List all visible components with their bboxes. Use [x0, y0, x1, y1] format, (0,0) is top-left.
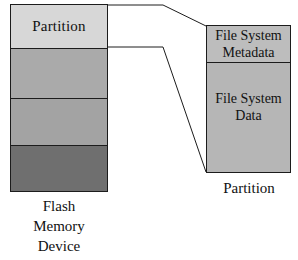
flash-memory-device-stack: Partition — [10, 4, 108, 192]
flash-memory-device-caption: Flash Memory Device — [8, 196, 110, 256]
flash-segment-2 — [11, 49, 107, 99]
flash-caption-line-1: Flash — [8, 196, 110, 216]
fs-data-line-2: Data — [235, 107, 261, 124]
flash-caption-line-2: Memory — [8, 216, 110, 236]
partition-segment-file-system-data: File System Data — [207, 63, 290, 172]
flash-segment-partition: Partition — [11, 5, 107, 49]
diagram-canvas: Partition Flash Memory Device File Syste… — [0, 0, 298, 260]
partition-detail-box: File System Metadata File System Data — [206, 25, 291, 173]
partition-segment-file-system-metadata: File System Metadata — [207, 26, 290, 63]
flash-segment-4 — [11, 146, 107, 191]
flash-caption-line-3: Device — [8, 236, 110, 256]
bottom-leader-line — [108, 47, 206, 172]
flash-segment-3 — [11, 99, 107, 146]
top-leader-line — [108, 5, 206, 26]
fs-metadata-line-1: File System — [215, 27, 282, 44]
fs-metadata-line-2: Metadata — [222, 44, 274, 61]
fs-data-line-1: File System — [215, 90, 282, 107]
partition-detail-caption: Partition — [200, 180, 298, 197]
flash-partition-label: Partition — [32, 18, 85, 35]
